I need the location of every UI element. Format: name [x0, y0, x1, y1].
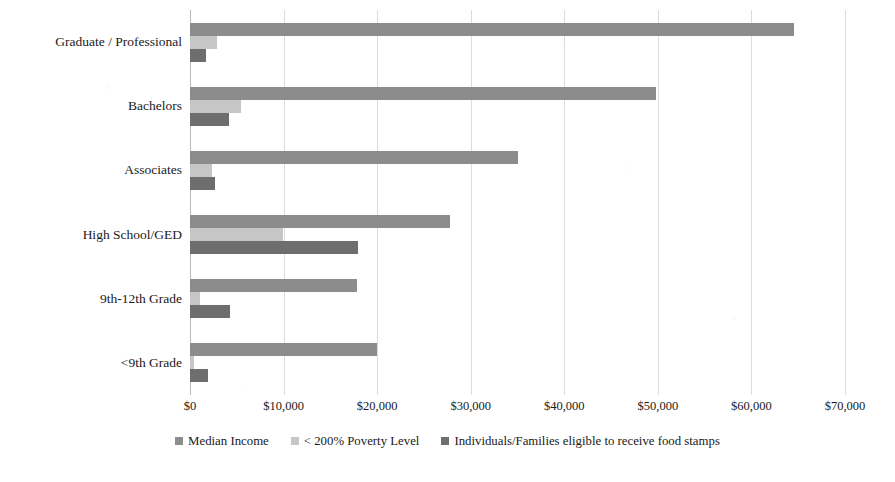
x-tick-label: $20,000: [357, 398, 398, 414]
legend-item[interactable]: < 200% Poverty Level: [291, 433, 420, 449]
legend-swatch-poverty-level: [291, 437, 299, 445]
gridline-30000: [471, 10, 472, 395]
x-tick-label: $50,000: [638, 398, 679, 414]
bar: [190, 151, 518, 164]
bar: [190, 369, 208, 382]
bar: [190, 49, 206, 62]
bar: [190, 356, 194, 369]
bar-chart: Graduate / ProfessionalBachelorsAssociat…: [0, 0, 895, 482]
gridline-70000: [845, 10, 846, 395]
bar: [190, 343, 377, 356]
y-axis-category-labels: Graduate / ProfessionalBachelorsAssociat…: [0, 10, 182, 395]
x-tick-label: $30,000: [450, 398, 491, 414]
bar: [190, 113, 229, 126]
gridline-10000: [284, 10, 285, 395]
y-axis-label: Associates: [4, 163, 182, 177]
bar: [190, 279, 357, 292]
x-tick-label: $70,000: [825, 398, 866, 414]
bar: [190, 215, 450, 228]
bar: [190, 87, 656, 100]
y-axis-label: Bachelors: [4, 99, 182, 113]
legend-item[interactable]: Individuals/Families eligible to receive…: [441, 433, 719, 449]
gridline-50000: [658, 10, 659, 395]
y-axis-label: 9th-12th Grade: [4, 292, 182, 306]
x-axis-tick-labels: $0$10,000$20,000$30,000$40,000$50,000$60…: [0, 398, 895, 418]
gridline-20000: [377, 10, 378, 395]
chart-legend: Median Income< 200% Poverty LevelIndivid…: [0, 430, 895, 452]
bar: [190, 292, 200, 305]
bar: [190, 23, 794, 36]
y-axis-label: <9th Grade: [4, 356, 182, 370]
legend-label: Individuals/Families eligible to receive…: [454, 433, 719, 449]
legend-swatch-median-income: [175, 437, 183, 445]
x-tick-label: $0: [184, 398, 197, 414]
bar: [190, 36, 217, 49]
bar: [190, 100, 241, 113]
legend-label: < 200% Poverty Level: [304, 433, 420, 449]
legend-item[interactable]: Median Income: [175, 433, 269, 449]
bar: [190, 228, 283, 241]
x-tick-label: $10,000: [263, 398, 304, 414]
plot-area: [190, 10, 845, 395]
y-axis-label: High School/GED: [4, 228, 182, 242]
bar: [190, 305, 230, 318]
gridline-60000: [751, 10, 752, 395]
y-axis-label: Graduate / Professional: [4, 35, 182, 49]
legend-label: Median Income: [188, 433, 269, 449]
bar: [190, 164, 212, 177]
x-tick-label: $40,000: [544, 398, 585, 414]
x-tick-label: $60,000: [731, 398, 772, 414]
legend-swatch-food-stamps: [441, 437, 449, 445]
bar: [190, 177, 215, 190]
gridline-40000: [564, 10, 565, 395]
bar: [190, 241, 358, 254]
